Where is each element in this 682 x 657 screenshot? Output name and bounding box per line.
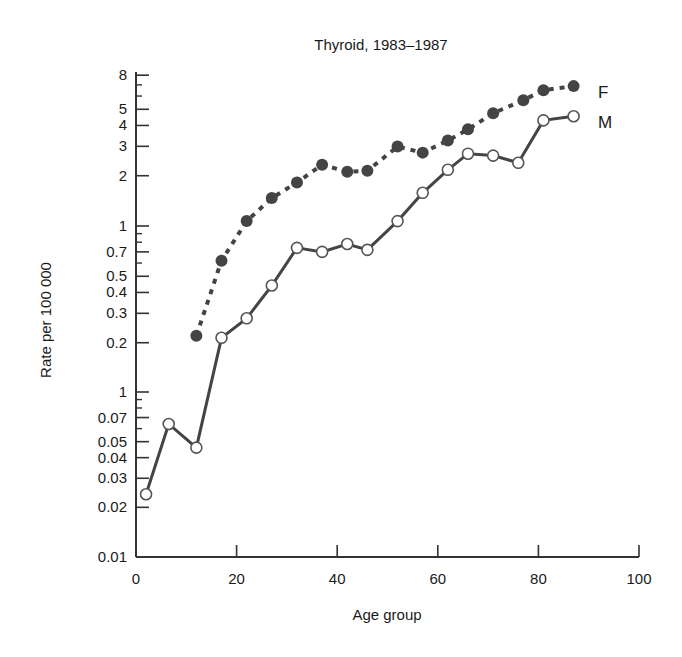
data-point-m [362,244,373,255]
y-tick-label: 1 [119,383,127,400]
chart-canvas: Thyroid, 1983–1987 0204060801008543210.7… [0,0,682,657]
y-tick-label: 5 [119,100,127,117]
data-point-m [317,246,328,257]
data-point-f [568,80,580,92]
data-point-m [417,187,428,198]
data-point-m [488,150,499,161]
x-axis-label: Age group [352,606,421,623]
data-point-m [392,216,403,227]
y-tick-label: 0.4 [106,283,127,300]
y-tick-label: 8 [119,66,127,83]
data-point-m [241,313,252,324]
y-tick-label: 3 [119,137,127,154]
data-point-f [266,192,278,204]
series-markers [141,80,580,500]
y-tick-label: 0.7 [106,243,127,260]
data-point-m [163,418,174,429]
y-tick-label: 1 [119,217,127,234]
y-tick-label: 0.02 [98,498,127,515]
y-tick-label: 4 [119,116,127,133]
data-point-f [537,84,549,96]
y-axis-label: Rate per 100 000 [37,262,54,378]
y-tick-label: 0.5 [106,267,127,284]
x-tick-label: 40 [329,570,346,587]
x-tick-label: 80 [530,570,547,587]
data-point-m [513,157,524,168]
x-tick-label: 20 [228,570,245,587]
data-point-m [538,115,549,126]
data-point-m [266,280,277,291]
y-tick-label: 0.3 [106,304,127,321]
x-tick-label: 100 [626,570,651,587]
data-point-m [191,442,202,453]
series-label-f: F [598,83,608,102]
data-point-f [216,255,228,267]
data-point-f [341,166,353,178]
data-point-f [462,123,474,135]
data-point-f [361,165,373,177]
y-tick-label: 0.03 [98,469,127,486]
data-point-m [568,111,579,122]
data-point-m [342,239,353,250]
data-point-f [291,177,303,189]
y-tick-label: 0.05 [98,433,127,450]
data-point-f [442,135,454,147]
x-tick-label: 0 [132,570,140,587]
data-point-f [487,107,499,119]
chart-title: Thyroid, 1983–1987 [314,36,447,53]
y-tick-label: 2 [119,167,127,184]
data-point-m [141,489,152,500]
y-tick-label: 0.04 [98,449,127,466]
y-tick-label: 0.01 [98,548,127,565]
series-label-m: M [598,113,612,132]
series-lines [146,86,574,494]
y-tick-label: 0.07 [98,409,127,426]
axes: 0204060801008543210.70.50.40.30.210.070.… [98,66,652,587]
data-point-m [442,164,453,175]
data-point-m [462,148,473,159]
data-point-f [241,215,253,227]
data-point-m [291,242,302,253]
series-line-m [146,116,574,494]
data-point-m [216,332,227,343]
x-tick-label: 60 [429,570,446,587]
data-point-f [517,94,529,106]
y-tick-label: 0.2 [106,334,127,351]
series-line-f [196,86,573,336]
data-point-f [392,141,404,153]
data-point-f [190,330,202,342]
data-point-f [316,159,328,171]
data-point-f [417,147,429,159]
